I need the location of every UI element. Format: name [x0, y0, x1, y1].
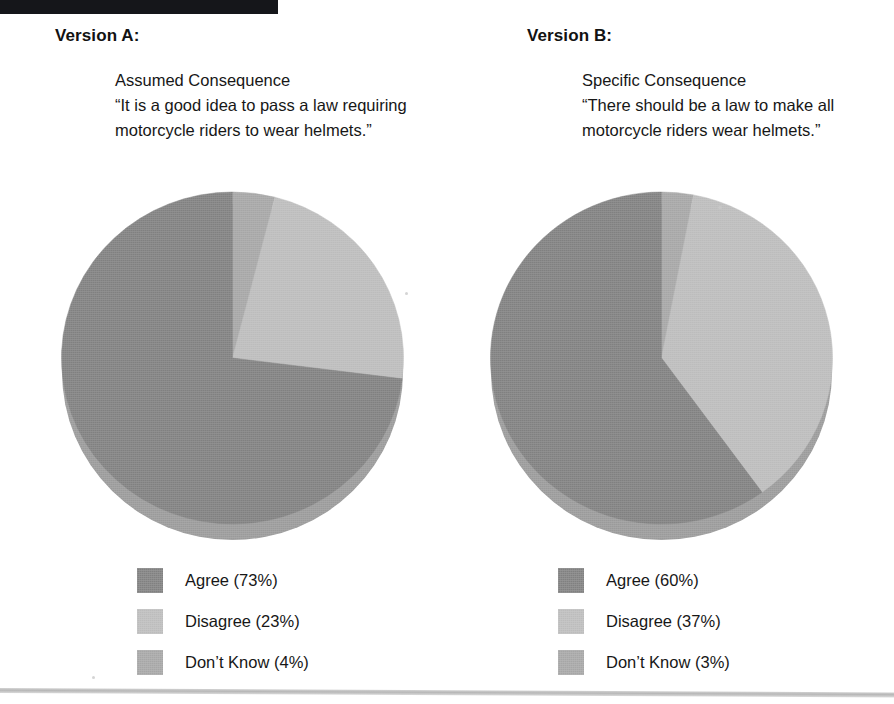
panel-version-b: Version B: Specific Consequence “There s… [443, 0, 886, 704]
legend-item: Disagree (23%) [137, 601, 437, 642]
legend-label-dont-know: Don’t Know (4%) [185, 653, 309, 672]
legend-swatch-dont-know-icon [558, 650, 584, 675]
version-b-question-label: Specific Consequence [582, 68, 882, 93]
legend-swatch-disagree-icon [137, 609, 163, 634]
legend-swatch-dont-know-icon [137, 650, 163, 675]
legend-item: Agree (73%) [137, 560, 437, 601]
version-b-heading: Version B: [527, 26, 612, 46]
pie-b-svg [489, 190, 834, 540]
legend-label-disagree: Disagree (37%) [606, 612, 721, 631]
version-a-pie-chart [60, 190, 405, 540]
legend-swatch-agree-icon [558, 568, 584, 593]
pie-a-svg [60, 190, 405, 540]
pie-a-slices [61, 192, 403, 524]
legend-label-agree: Agree (73%) [185, 571, 278, 590]
version-a-heading: Version A: [55, 26, 139, 46]
version-b-question-text: “There should be a law to make all motor… [582, 93, 882, 143]
pie-b-slices [490, 192, 832, 524]
version-b-pie-chart [489, 190, 834, 540]
version-a-legend: Agree (73%) Disagree (23%) Don’t Know (4… [137, 560, 437, 683]
version-b-legend: Agree (60%) Disagree (37%) Don’t Know (3… [558, 560, 858, 683]
legend-swatch-disagree-icon [558, 609, 584, 634]
legend-item: Don’t Know (4%) [137, 642, 437, 683]
version-b-question-block: Specific Consequence “There should be a … [582, 68, 882, 143]
legend-label-dont-know: Don’t Know (3%) [606, 653, 730, 672]
version-a-question-block: Assumed Consequence “It is a good idea t… [115, 68, 415, 143]
scan-speck [92, 676, 95, 679]
version-a-question-text: “It is a good idea to pass a law requiri… [115, 93, 415, 143]
scan-speck [718, 206, 722, 209]
version-a-question-label: Assumed Consequence [115, 68, 415, 93]
legend-item: Don’t Know (3%) [558, 642, 858, 683]
legend-label-disagree: Disagree (23%) [185, 612, 300, 631]
panel-version-a: Version A: Assumed Consequence “It is a … [0, 0, 443, 704]
legend-swatch-agree-icon [137, 568, 163, 593]
legend-item: Agree (60%) [558, 560, 858, 601]
scan-speck [405, 292, 408, 295]
legend-label-agree: Agree (60%) [606, 571, 699, 590]
legend-item: Disagree (37%) [558, 601, 858, 642]
